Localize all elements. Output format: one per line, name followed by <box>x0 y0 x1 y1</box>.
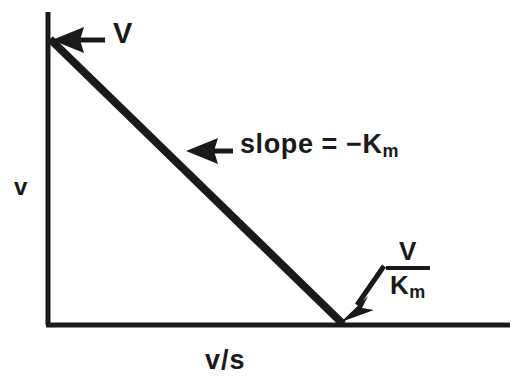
data-line <box>50 39 343 324</box>
x-axis-label: v/s <box>205 347 246 374</box>
fraction-numerator: V <box>386 238 430 265</box>
fraction-denominator: Km <box>386 272 430 301</box>
y-axis-label: v <box>14 175 28 199</box>
y-intercept-label: V <box>113 19 133 48</box>
x-intercept-arrow <box>341 266 384 322</box>
plot-canvas <box>0 0 527 387</box>
eadie-hofstee-plot-figure: v v/s V slope = −Km V Km <box>0 0 527 387</box>
slope-label-subscript: m <box>383 141 399 161</box>
fraction-denominator-text: K <box>390 270 409 300</box>
fraction-denominator-subscript: m <box>409 282 426 302</box>
slope-label-text: slope = −K <box>240 129 383 159</box>
slope-arrow <box>186 138 233 164</box>
x-intercept-fraction-label: V Km <box>386 238 430 301</box>
slope-label: slope = −Km <box>240 131 399 160</box>
